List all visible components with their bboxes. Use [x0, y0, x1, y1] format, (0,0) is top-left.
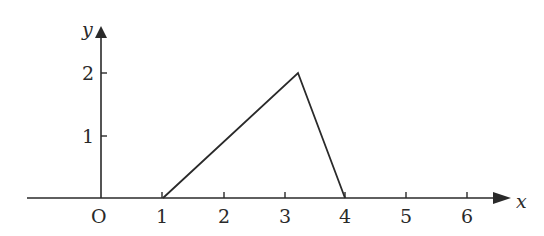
x-tick-label-4: 4 [339, 205, 351, 227]
x-tick-label-1: 1 [156, 205, 168, 227]
x-tick-label-3: 3 [279, 205, 291, 227]
y-ticks [101, 73, 107, 136]
origin-label: O [91, 205, 107, 227]
y-axis-label: y [81, 18, 93, 40]
graph-figure: O 1 2 3 4 5 6 1 2 x y [0, 0, 544, 236]
y-tick-label-2: 2 [82, 62, 94, 84]
function-graph [163, 73, 345, 198]
x-tick-label-6: 6 [461, 205, 473, 227]
x-axis-arrow-icon [493, 192, 511, 204]
y-axis-arrow-icon [95, 26, 107, 38]
x-axis-label: x [516, 190, 527, 212]
x-ticks [162, 192, 467, 198]
x-tick-label-2: 2 [218, 205, 230, 227]
graph-svg: O 1 2 3 4 5 6 1 2 x y [0, 0, 544, 236]
y-tick-label-1: 1 [82, 125, 94, 147]
x-tick-label-5: 5 [400, 205, 412, 227]
